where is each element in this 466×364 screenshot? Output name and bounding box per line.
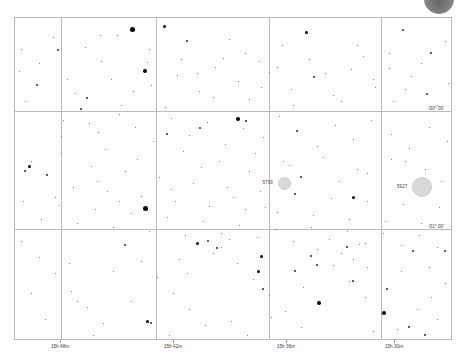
star-marker (353, 259, 354, 260)
star-marker (441, 181, 442, 182)
star-marker (391, 159, 392, 160)
star-marker (69, 263, 70, 264)
star-marker (59, 205, 60, 206)
star-marker (300, 176, 302, 178)
star-marker (201, 167, 202, 168)
star-marker (199, 127, 201, 129)
star-marker (216, 247, 218, 249)
declination-tick-label: -51° 00' (428, 225, 444, 230)
star-marker (189, 135, 190, 136)
star-marker (293, 241, 294, 242)
star-marker (103, 323, 104, 324)
grid-line-vertical (269, 18, 270, 339)
chart-frame: 57995927 (14, 17, 452, 340)
star-marker (257, 270, 260, 273)
star-marker (277, 67, 278, 68)
star-marker (55, 273, 56, 274)
star-marker (28, 165, 31, 168)
star-marker (146, 320, 149, 323)
star-marker (351, 69, 352, 70)
star-marker (75, 93, 76, 94)
ra-tick-mark (394, 340, 395, 343)
star-marker (382, 311, 386, 315)
star-marker (402, 29, 404, 31)
star-marker (71, 291, 72, 292)
star-marker (282, 45, 283, 46)
star-marker (294, 193, 296, 195)
right-ascension-tick-label: 15h 30m (385, 345, 403, 350)
star-marker (317, 249, 318, 250)
star-marker (352, 280, 354, 282)
star-marker (329, 239, 330, 240)
star-marker (107, 191, 108, 192)
grid-line-vertical (61, 18, 62, 339)
star-marker (150, 322, 152, 324)
star-marker (185, 235, 186, 236)
star-marker (346, 246, 348, 248)
star-marker (225, 144, 226, 145)
star-marker (333, 265, 334, 266)
star-marker (341, 101, 342, 102)
star-marker (301, 327, 302, 328)
star-marker (259, 61, 260, 62)
star-marker (119, 201, 120, 202)
star-marker (179, 259, 180, 260)
star-marker (359, 244, 360, 245)
star-marker (231, 321, 232, 322)
star-marker (163, 25, 166, 28)
grid-line-horizontal (15, 111, 451, 112)
star-marker (177, 75, 178, 76)
star-marker (325, 73, 326, 74)
star-marker (85, 47, 86, 48)
star-marker (229, 39, 230, 40)
star-marker (46, 174, 48, 176)
star-marker (77, 301, 78, 302)
deep-sky-object-label: 5799 (263, 181, 273, 186)
star-marker (113, 227, 114, 228)
star-marker (53, 37, 54, 38)
star-marker (261, 87, 262, 88)
star-marker (173, 293, 174, 294)
star-marker (77, 223, 78, 224)
star-marker (61, 136, 62, 137)
star-marker (445, 41, 446, 42)
star-marker (397, 329, 398, 330)
star-marker (243, 128, 244, 129)
star-marker (203, 221, 204, 222)
star-marker (401, 245, 402, 246)
star-marker (105, 149, 106, 150)
star-marker (269, 295, 270, 296)
star-marker (87, 307, 88, 308)
ra-tick-mark (173, 340, 174, 343)
deep-sky-object-marker (278, 177, 291, 190)
star-marker (131, 213, 132, 214)
star-marker (97, 181, 98, 182)
star-marker (249, 171, 250, 172)
star-marker (73, 187, 74, 188)
star-marker (149, 49, 150, 50)
star-marker (367, 201, 368, 202)
star-marker (263, 137, 264, 138)
star-marker (421, 223, 422, 224)
star-marker (215, 67, 216, 68)
star-marker (260, 191, 261, 192)
star-marker (269, 72, 270, 73)
grid-line-vertical (156, 18, 157, 339)
star-marker (271, 317, 272, 318)
star-marker (61, 153, 62, 154)
star-marker (189, 309, 190, 310)
star-marker (283, 161, 284, 162)
star-marker (411, 76, 412, 77)
star-marker (437, 247, 438, 248)
star-marker (86, 97, 88, 99)
star-marker (221, 233, 222, 234)
ra-tick-mark (286, 340, 287, 343)
star-marker (57, 49, 59, 51)
star-marker (316, 264, 318, 266)
star-marker (166, 133, 168, 135)
star-marker (424, 334, 426, 336)
star-marker (141, 261, 142, 262)
star-marker (363, 56, 364, 57)
star-marker (357, 169, 358, 170)
circular-overlay-badge (424, 0, 454, 14)
